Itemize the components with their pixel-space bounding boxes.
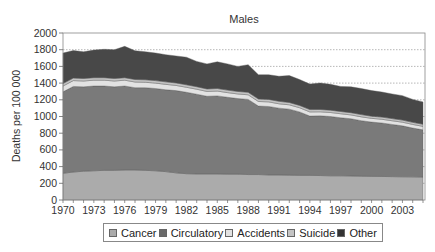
x-tick-label: 1991 [267,204,291,216]
legend-swatch-icon [159,229,167,237]
y-tick-label: 1200 [34,93,58,105]
y-axis: 0200400600800100012001400160018002000 [34,27,63,206]
y-tick-label: 1600 [34,60,58,72]
data-areas [63,46,423,200]
y-tick-label: 800 [39,127,57,139]
chart-title: Males [229,13,259,25]
y-tick-label: 400 [39,160,57,172]
legend-item-suicide: Suicide [287,227,335,239]
legend-item-accidents: Accidents [225,227,285,239]
y-tick-label: 1000 [34,110,58,122]
legend-label: Cancer [121,227,156,239]
x-tick-label: 1976 [113,204,137,216]
legend-swatch-icon [225,229,233,237]
y-axis-label: Deaths per 100 000 [10,70,22,162]
legend-label: Suicide [299,227,335,239]
x-tick-label: 1973 [82,204,106,216]
legend-label: Other [349,227,377,239]
y-tick-label: 200 [39,177,57,189]
legend-item-other: Other [337,227,377,239]
x-tick-label: 2000 [360,204,384,216]
legend-item-circulatory: Circulatory [159,227,224,239]
legend-item-cancer: Cancer [109,227,156,239]
legend-swatch-icon [337,229,345,237]
legend-swatch-icon [109,229,117,237]
stacked-area-chart: Males 0200400600800100012001400160018002… [0,0,435,252]
x-tick-label: 1979 [144,204,168,216]
x-tick-label: 1985 [206,204,230,216]
x-tick-label: 1997 [329,204,353,216]
x-tick-label: 1970 [51,204,75,216]
x-axis: 1970197319761979198219851988199119941997… [51,200,423,216]
legend-label: Circulatory [171,227,224,239]
x-tick-label: 1994 [298,204,322,216]
y-tick-label: 600 [39,143,57,155]
legend-label: Accidents [237,227,285,239]
legend: CancerCirculatoryAccidentsSuicideOther [103,223,383,242]
y-tick-label: 1400 [34,77,58,89]
x-tick-label: 2003 [391,204,415,216]
x-tick-label: 1982 [175,204,199,216]
legend-swatch-icon [287,229,295,237]
x-tick-label: 1988 [236,204,260,216]
y-tick-label: 2000 [34,27,58,39]
y-tick-label: 1800 [34,43,58,55]
